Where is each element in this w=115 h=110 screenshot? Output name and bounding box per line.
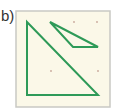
peg-dot [97, 70, 99, 72]
peg-dot [73, 21, 75, 23]
peg-dot [96, 21, 98, 23]
geoboard-diagram [0, 0, 115, 110]
peg-dot [50, 70, 52, 72]
